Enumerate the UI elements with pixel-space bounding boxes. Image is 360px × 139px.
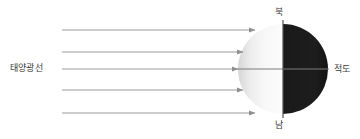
sun-rays-label: 태양광선: [10, 64, 43, 73]
diagram-canvas: 태양광선 북 남 적도: [0, 0, 360, 139]
diagram-graphics: [0, 0, 360, 139]
equator-label: 적도: [334, 65, 350, 74]
south-pole-label: 남: [275, 121, 283, 130]
sun-ray-group: [62, 30, 255, 113]
north-pole-label: 북: [275, 8, 283, 17]
